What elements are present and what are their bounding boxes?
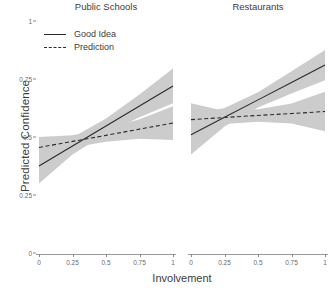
series-canvas-restaurants (188, 21, 328, 253)
legend-key-solid-line-icon (42, 28, 68, 40)
facet-panel-restaurants: Restaurants 00.250.50.751 (188, 21, 328, 253)
x-tick-label: 0.75 (133, 259, 146, 266)
facet-title-restaurants: Restaurants (188, 1, 328, 12)
y-tick-label: 0 (28, 250, 32, 257)
x-tick-mark (191, 254, 192, 257)
x-axis-public-schools: 00.250.50.751 (36, 254, 176, 270)
x-tick-mark (73, 254, 74, 257)
facet-title-public-schools: Public Schools (36, 1, 176, 12)
x-tick-mark (225, 254, 226, 257)
legend-item-prediction: Prediction (42, 40, 116, 53)
y-axis: 00.250.50.751 (14, 21, 36, 253)
confidence-ribbon (39, 106, 173, 158)
chart-figure: Predicted Confidence 00.250.50.751 Publi… (0, 0, 333, 293)
x-tick-label: 0.25 (218, 259, 231, 266)
x-tick-mark (325, 254, 326, 257)
x-tick-label: 1 (323, 259, 327, 266)
legend-label-prediction: Prediction (74, 42, 114, 52)
x-tick-mark (140, 254, 141, 257)
x-tick-label: 0.25 (66, 259, 79, 266)
x-axis-label: Involvement (36, 272, 328, 284)
x-tick-label: 0.75 (285, 259, 298, 266)
x-tick-label: 0.5 (253, 259, 262, 266)
plot-area-restaurants (188, 21, 328, 253)
facet-panel-public-schools: Public Schools 00.250.50.751 Good Idea (36, 21, 176, 253)
y-tick-label: 1 (28, 18, 32, 25)
x-tick-mark (106, 254, 107, 257)
x-tick-mark (173, 254, 174, 257)
x-tick-label: 0 (37, 259, 41, 266)
legend-key-dashed-line-icon (42, 41, 68, 53)
x-tick-mark (258, 254, 259, 257)
y-tick-label: 0.75 (19, 76, 32, 83)
x-axis-restaurants: 00.250.50.751 (188, 254, 328, 270)
legend: Good Idea Prediction (42, 27, 116, 53)
x-tick-label: 0.5 (101, 259, 110, 266)
legend-label-good-idea: Good Idea (74, 29, 116, 39)
legend-item-good-idea: Good Idea (42, 27, 116, 40)
series-canvas-public-schools (36, 21, 176, 253)
y-tick-label: 0.5 (23, 134, 32, 141)
facet-panels: Public Schools 00.250.50.751 Good Idea (36, 21, 328, 253)
x-tick-label: 0 (189, 259, 193, 266)
x-tick-mark (292, 254, 293, 257)
x-tick-mark (39, 254, 40, 257)
x-tick-label: 1 (171, 259, 175, 266)
y-tick-label: 0.25 (19, 192, 32, 199)
plot-area-public-schools (36, 21, 176, 253)
